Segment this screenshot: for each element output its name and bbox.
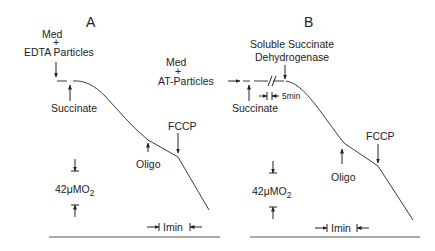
panel-b-fccp-label: FCCP — [366, 130, 395, 142]
panel-b-oligo-label: Oligo — [331, 171, 356, 183]
panel-a-time-scale: Imin — [147, 221, 202, 233]
panel-b-oxygen-scale-label: 42μMO2 — [252, 185, 292, 200]
panel-a-oxygen-scale-label: 42μMO2 — [55, 183, 95, 198]
panel-a-label: A — [86, 14, 96, 30]
panel-a-oxygen-scale: 42μMO2 — [55, 159, 95, 217]
panel-b-enzyme-label-line2: Dehydrogenase — [255, 51, 329, 63]
panel-b-gap-marker: 5min — [259, 91, 301, 101]
panel-b: B Soluble Succinate Dehydrogenase Med + … — [158, 14, 420, 237]
panel-a-oligo-label: Oligo — [136, 158, 161, 170]
panel-a-particles-label: EDTA Particles — [24, 46, 94, 58]
panel-b-enzyme-label-line1: Soluble Succinate — [250, 38, 334, 50]
panel-b-succinate-label: Succinate — [232, 102, 278, 114]
panel-b-label: B — [304, 14, 313, 30]
panel-b-particles-label: AT-Particles — [158, 75, 214, 87]
oxygen-trace-figure: A Med + EDTA Particles Succinate Oligo F… — [0, 0, 435, 251]
panel-b-time-scale-label: Imin — [331, 222, 351, 234]
panel-b-oxygen-scale: 42μMO2 — [252, 161, 292, 219]
panel-a-fccp-label: FCCP — [168, 120, 197, 132]
panel-b-gap-label: 5min — [282, 91, 301, 101]
panel-a: A Med + EDTA Particles Succinate Oligo F… — [24, 14, 220, 237]
panel-b-time-scale: Imin — [315, 222, 369, 234]
panel-a-time-scale-label: Imin — [163, 221, 183, 233]
panel-a-succinate-label: Succinate — [51, 102, 97, 114]
